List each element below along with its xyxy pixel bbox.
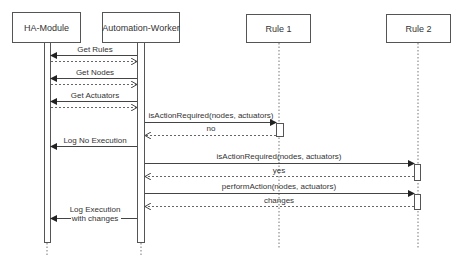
participant-label: HA-Module	[24, 23, 69, 33]
message-log-execution-with-changes: Log Execution with changes	[51, 205, 137, 223]
message-label: performAction(nodes, actuators)	[222, 182, 337, 191]
participant-rule-1: Rule 1	[247, 15, 311, 249]
message-get-nodes: Get Nodes	[51, 68, 137, 85]
participant-label: Rule 2	[405, 24, 431, 34]
message-rule2-is-action-required: isActionRequired(nodes, actuators) yes	[145, 152, 414, 177]
message-label: isActionRequired(nodes, actuators)	[217, 152, 342, 161]
message-label: no	[207, 124, 216, 133]
message-label-line2: with changes	[71, 214, 119, 223]
message-get-rules: Get Rules	[51, 45, 137, 62]
message-log-no-execution: Log No Execution	[51, 136, 137, 147]
sequence-diagram: HA-Module Automation-Worker Rule 1 Rule …	[0, 0, 464, 257]
message-label: Get Nodes	[76, 68, 114, 77]
activation-bar	[277, 124, 284, 137]
activation-bar	[415, 195, 421, 210]
participant-rule-2: Rule 2	[387, 15, 451, 249]
message-get-actuators: Get Actuators	[51, 91, 137, 108]
participant-ha-module: HA-Module	[13, 13, 81, 257]
message-label: isActionRequired(nodes, actuators)	[149, 111, 274, 120]
message-rule1-is-action-required: isActionRequired(nodes, actuators) no	[145, 111, 276, 136]
message-label: yes	[273, 166, 285, 175]
message-label: Get Rules	[77, 45, 113, 54]
activation-bar	[415, 165, 421, 181]
activation-bar	[138, 43, 145, 243]
message-label: Log No Execution	[63, 136, 126, 145]
participant-label: Rule 1	[265, 24, 291, 34]
message-label: changes	[264, 196, 294, 205]
activation-bar	[45, 43, 51, 243]
message-label: Get Actuators	[71, 91, 119, 100]
message-label-line1: Log Execution	[70, 205, 121, 214]
participant-label: Automation-Worker	[102, 23, 179, 33]
